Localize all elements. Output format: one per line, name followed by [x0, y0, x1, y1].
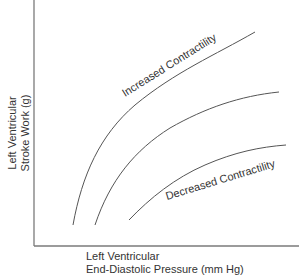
curve-normal	[95, 92, 279, 225]
curve-label-decreased: Decreased Contractility	[164, 157, 277, 202]
x-axis-label-line1: Left Ventricular	[86, 250, 244, 263]
x-axis-label: Left Ventricular End-Diastolic Pressure …	[86, 250, 244, 276]
axes	[34, 0, 299, 246]
y-axis-label: Left Ventricular Stroke Work (g)	[6, 78, 32, 188]
curve-label-increased: Increased Contractility	[120, 31, 219, 99]
y-axis-label-line2: Stroke Work (g)	[19, 78, 32, 188]
x-axis-label-line2: End-Diastolic Pressure (mm Hg)	[86, 263, 244, 276]
y-axis-label-line1: Left Ventricular	[6, 78, 19, 188]
